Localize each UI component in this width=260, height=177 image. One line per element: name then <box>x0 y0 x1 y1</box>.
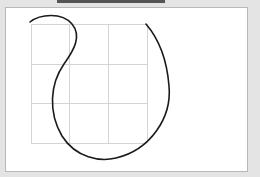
curve-stroke <box>30 16 169 160</box>
grid <box>31 24 148 144</box>
drawing-canvas <box>0 0 260 177</box>
